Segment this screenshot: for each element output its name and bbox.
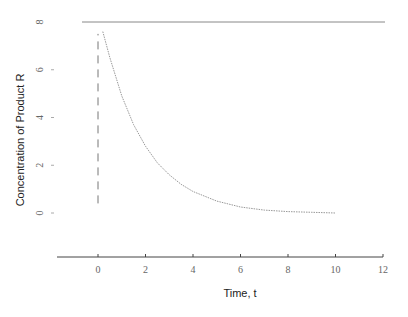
y-tick-label: 6 (34, 67, 45, 72)
series-layer (82, 22, 385, 213)
x-axis-title: Time, t (223, 287, 256, 299)
x-tick-label: 12 (378, 264, 388, 275)
y-tick-label: 4 (34, 115, 45, 120)
y-tick-label: 2 (34, 163, 45, 168)
x-tick-label: 2 (143, 264, 148, 275)
series-line (103, 32, 336, 213)
x-tick-label: 10 (331, 264, 341, 275)
y-tick-label: 0 (34, 211, 45, 216)
chart: 02468101202468 Time, t Concentration of … (0, 0, 408, 317)
x-tick-label: 0 (96, 264, 101, 275)
y-tick-label: 8 (34, 20, 45, 25)
x-tick-label: 6 (238, 264, 243, 275)
x-tick-label: 8 (286, 264, 291, 275)
axes: 02468101202468 (34, 20, 388, 276)
y-axis-title: Concentration of Product R (14, 74, 26, 207)
x-tick-label: 4 (191, 264, 196, 275)
